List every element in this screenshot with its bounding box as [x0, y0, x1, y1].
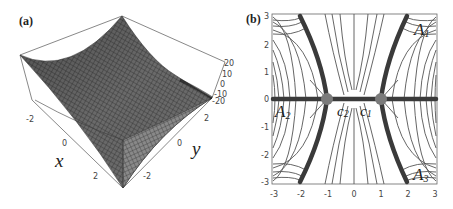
- x-tick: -3: [270, 190, 278, 199]
- z-tick: 10: [222, 70, 232, 79]
- z-tick: 20: [224, 59, 234, 68]
- x-tick: 0: [351, 190, 356, 199]
- x-tick: 2: [405, 190, 410, 199]
- z-axis-ticks: 20 10 0 -10 -20: [212, 59, 234, 106]
- x-tick: -2: [297, 190, 305, 199]
- contour-plot-svg: A1 A2 A3 c2 c1 3 2 1 0 -1 -2 -3 -3 -2 -1…: [240, 0, 453, 209]
- x-axis-title: x: [54, 150, 64, 171]
- y-tick: 3: [264, 12, 269, 21]
- y-axis-ticks: 3 2 1 0 -1 -2 -3: [261, 12, 269, 187]
- x-tick: -1: [324, 190, 332, 199]
- y-tick: 2: [264, 41, 269, 50]
- y-tick: 0: [177, 139, 182, 148]
- y-tick: -3: [261, 178, 269, 187]
- y-tick: -2: [261, 151, 269, 160]
- critical-point-c2: [321, 93, 333, 105]
- x-tick: -2: [26, 115, 34, 124]
- x-tick: 3: [432, 190, 437, 199]
- panel-a-surface-plot: (a): [0, 0, 240, 209]
- critical-point-c1: [375, 93, 387, 105]
- y-tick: -1: [261, 123, 269, 132]
- surface-plot-svg: 20 10 0 -10 -20 -2 0 2 -2 0 2 x y: [0, 0, 240, 209]
- y-tick: 1: [264, 68, 269, 77]
- y-tick: 0: [264, 95, 269, 104]
- x-tick: 1: [378, 190, 383, 199]
- x-tick: 2: [93, 172, 98, 181]
- z-tick: -20: [212, 97, 225, 106]
- y-axis-title: y: [190, 138, 201, 159]
- y-tick: -2: [143, 172, 151, 181]
- x-axis-ticks: -3 -2 -1 0 1 2 3: [270, 190, 438, 199]
- y-tick: 2: [204, 114, 209, 123]
- panel-b-contour-plot: (b): [240, 0, 453, 209]
- x-tick: 0: [62, 139, 67, 148]
- z-tick: 0: [220, 80, 225, 89]
